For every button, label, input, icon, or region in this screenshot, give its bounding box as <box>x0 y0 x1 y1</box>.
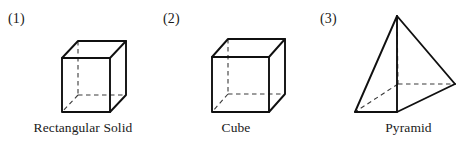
right-face-edges <box>269 39 285 112</box>
caption-rectangular-solid: Rectangular Solid <box>3 120 163 136</box>
figure-panel-pyramid: (3) Pyramid <box>312 0 475 143</box>
hidden-back-left-edge <box>212 94 228 112</box>
caption-pyramid: Pyramid <box>327 120 475 136</box>
pyramid-hidden-edges <box>355 16 455 112</box>
front-face-edges <box>212 57 269 112</box>
lateral-edge-left <box>355 16 397 112</box>
pyramid-visible-edges <box>355 16 455 112</box>
lateral-edge-right <box>397 16 455 84</box>
pyramid-drawing <box>312 0 475 120</box>
cube-drawing <box>155 0 315 120</box>
top-face-edges <box>212 39 285 57</box>
figure-panel-cube: (2) Cube <box>155 0 315 143</box>
caption-cube: Cube <box>156 120 316 136</box>
rectangular-solid-drawing <box>0 0 160 120</box>
cube-visible-edges <box>212 39 285 112</box>
right-face-edges <box>110 41 126 112</box>
base-front-edges <box>355 84 455 112</box>
hidden-back-left-edge <box>62 95 78 112</box>
figure-panel-rectangular-solid: (1) Rectangular Solid <box>0 0 160 143</box>
front-face-edges <box>62 58 110 112</box>
top-face-edges <box>62 41 126 58</box>
